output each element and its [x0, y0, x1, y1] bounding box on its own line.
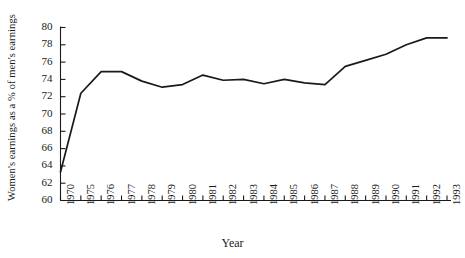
- y-tick-label: 62: [31, 176, 53, 188]
- y-tick-label: 72: [31, 89, 53, 101]
- x-tick-label: 1989: [370, 184, 381, 205]
- y-tick-label: 64: [31, 158, 53, 170]
- y-tick-label: 80: [31, 20, 53, 32]
- x-tick-label: 1990: [390, 184, 401, 205]
- x-tick-label: 1983: [248, 184, 259, 205]
- x-tick-label: 1992: [431, 184, 442, 205]
- data-series-line: [61, 38, 448, 172]
- x-tick-label: 1985: [288, 184, 299, 205]
- y-tick-label: 60: [31, 193, 53, 205]
- x-tick-label: 1978: [146, 184, 157, 205]
- y-tick-label: 70: [31, 107, 53, 119]
- y-tick-label: 78: [31, 37, 53, 49]
- x-tick-label: 1987: [329, 184, 340, 205]
- x-tick-label: 1979: [166, 184, 177, 205]
- chart-container: Women's earnings as a % of men's earning…: [0, 0, 465, 258]
- y-tick-label: 68: [31, 124, 53, 136]
- x-tick-label: 1980: [187, 184, 198, 205]
- x-tick-label: 1982: [227, 184, 238, 205]
- x-tick-label: 1991: [410, 184, 421, 205]
- x-tick-label: 1981: [207, 184, 218, 205]
- x-tick-label: 1977: [126, 184, 137, 205]
- y-tick-label: 76: [31, 55, 53, 67]
- x-tick-label: 1975: [85, 184, 96, 205]
- x-tick-label: 1993: [451, 184, 462, 205]
- x-tick-label: 1988: [349, 184, 360, 205]
- y-axis-ticks: [61, 28, 66, 201]
- axes: [61, 27, 452, 201]
- x-axis-title: Year: [0, 236, 465, 251]
- y-tick-label: 66: [31, 141, 53, 153]
- x-tick-label: 1986: [309, 184, 320, 205]
- x-tick-label: 1970: [65, 184, 76, 205]
- y-tick-label: 74: [31, 72, 53, 84]
- x-tick-label: 1984: [268, 184, 279, 205]
- x-tick-label: 1976: [105, 184, 116, 205]
- line-chart-plot: [0, 0, 465, 258]
